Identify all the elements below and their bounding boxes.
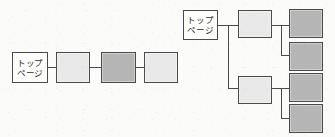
tree-connector-branch-2-leaf-2	[281, 118, 289, 119]
tree-branch-node-1[interactable]	[238, 10, 272, 38]
tree-leaf-node-2-2[interactable]	[289, 104, 323, 133]
linear-node-2[interactable]	[101, 52, 136, 83]
tree-root-node[interactable]: トップ ページ	[183, 10, 218, 40]
tree-branch-node-2[interactable]	[238, 76, 272, 104]
tree-connector-branch-2-leaf-1	[281, 88, 289, 89]
tree-connector-branch-1-leaf-2	[281, 55, 289, 56]
tree-root-label: トップ ページ	[184, 15, 217, 35]
tree-trunk-vertical	[228, 25, 229, 88]
figure-canvas: トップ ページ トップ ページ	[0, 0, 335, 137]
linear-connector-root-to-1	[48, 67, 56, 68]
tree-branch-2-vertical	[281, 88, 282, 118]
linear-node-1[interactable]	[56, 52, 90, 83]
tree-connector-trunk-to-branch-1	[228, 25, 238, 26]
tree-branch-1-vertical	[281, 25, 282, 55]
linear-root-label: トップ ページ	[13, 58, 47, 78]
linear-root-node[interactable]: トップ ページ	[12, 52, 48, 83]
linear-connector-1-to-2	[90, 67, 101, 68]
tree-connector-trunk-to-branch-2	[228, 88, 238, 89]
tree-leaf-node-1-2[interactable]	[289, 42, 323, 71]
linear-connector-2-to-3	[136, 67, 144, 68]
tree-leaf-node-2-1[interactable]	[289, 73, 323, 102]
tree-leaf-node-1-1[interactable]	[289, 9, 323, 38]
linear-node-3[interactable]	[144, 52, 178, 83]
tree-connector-branch-1-leaf-1	[281, 25, 289, 26]
